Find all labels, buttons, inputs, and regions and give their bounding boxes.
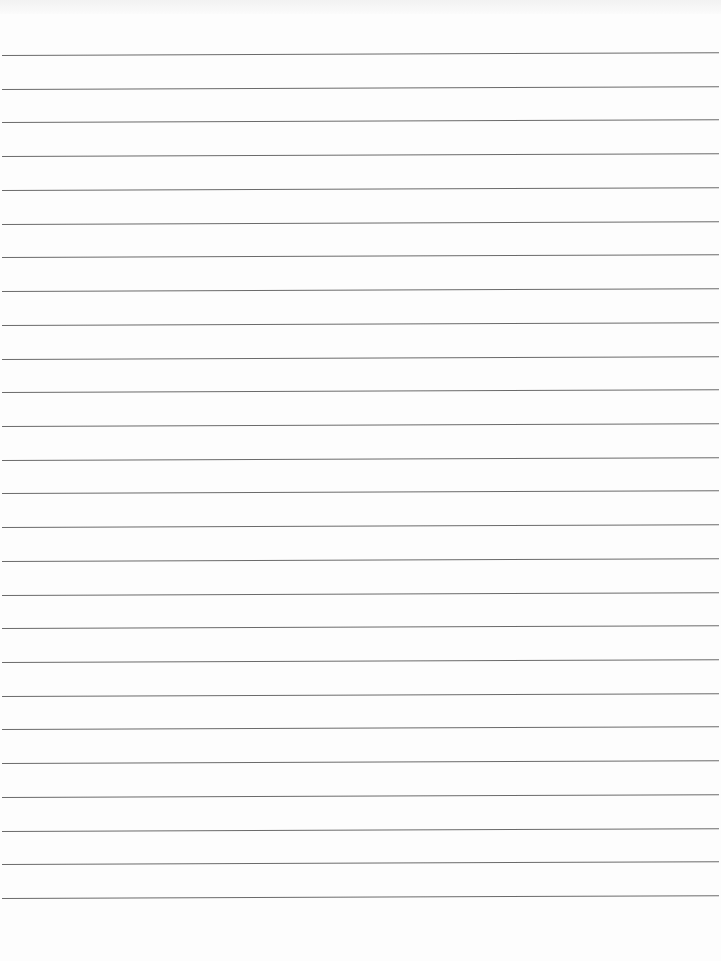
- ruled-line: [2, 693, 719, 697]
- ruled-line: [2, 794, 719, 798]
- ruled-line: [2, 727, 719, 731]
- ruled-line: [2, 221, 719, 225]
- ruled-line: [2, 491, 719, 495]
- ruled-line: [2, 625, 719, 629]
- ruled-line: [2, 322, 719, 326]
- ruled-line: [2, 828, 719, 832]
- ruled-line: [2, 760, 719, 764]
- ruled-line: [2, 86, 719, 90]
- ruled-line: [2, 524, 719, 528]
- ruled-line: [2, 558, 719, 562]
- page-top-edge: [0, 0, 721, 14]
- ruled-line: [2, 187, 719, 191]
- ruled-line: [2, 389, 719, 393]
- ruled-line: [2, 288, 719, 292]
- ruled-line: [2, 592, 719, 596]
- ruled-line: [2, 356, 719, 360]
- ruled-line: [2, 862, 719, 866]
- ruled-line: [2, 52, 719, 56]
- ruled-line: [2, 153, 719, 157]
- lined-paper-page: [0, 0, 721, 961]
- ruled-line: [2, 255, 719, 259]
- ruled-line: [2, 457, 719, 461]
- ruled-line: [2, 423, 719, 427]
- ruled-line: [2, 895, 719, 899]
- ruled-line: [2, 659, 719, 663]
- ruled-line: [2, 120, 719, 124]
